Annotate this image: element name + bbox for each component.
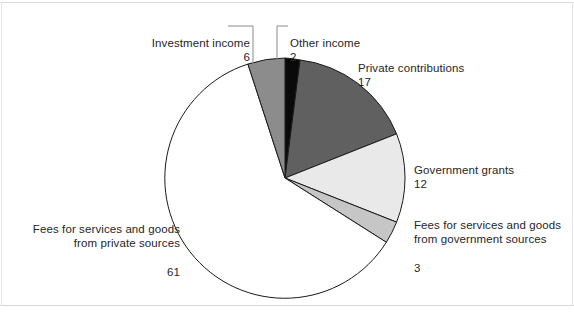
slice-label-private-fees: Fees for services and goods from private… [8, 207, 180, 294]
slice-label-investment-income-value: 6 [118, 50, 250, 65]
slice-label-government-fees-line2: from government sources [414, 232, 570, 247]
slice-label-government-grants-name: Government grants [414, 164, 514, 176]
slice-label-government-grants: Government grants 12 [414, 148, 564, 206]
slice-label-private-fees-line1: Fees for services and goods [33, 223, 180, 235]
slice-label-government-fees-value: 3 [414, 261, 570, 276]
slice-label-private-contributions-name: Private contributions [358, 62, 464, 74]
slice-label-other-income-name: Other income [290, 37, 360, 49]
slice-label-government-fees: Fees for services and goods from governm… [414, 203, 570, 290]
slice-label-private-fees-line2: from private sources [8, 236, 180, 251]
slice-label-government-grants-value: 12 [414, 177, 564, 192]
pie-chart-figure: Investment income 6 Other income 2 Priva… [0, 0, 574, 318]
slice-label-private-contributions-value: 17 [358, 75, 538, 90]
slice-label-private-contributions: Private contributions 17 [358, 46, 538, 104]
slice-label-government-fees-line1: Fees for services and goods [414, 219, 561, 231]
slice-label-private-fees-value: 61 [8, 265, 180, 280]
slice-label-investment-income-name: Investment income [152, 37, 250, 49]
slice-label-investment-income: Investment income 6 [118, 21, 250, 79]
